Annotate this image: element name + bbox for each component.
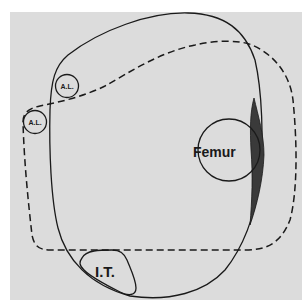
anatomical-cross-section-diagram: Femur A.L. A.L. I.T. — [0, 0, 306, 307]
al-upper-label: A.L. — [60, 83, 73, 90]
it-label: I.T. — [95, 263, 115, 280]
femur-label: Femur — [193, 144, 236, 160]
al-lower-label: A.L. — [28, 119, 41, 126]
